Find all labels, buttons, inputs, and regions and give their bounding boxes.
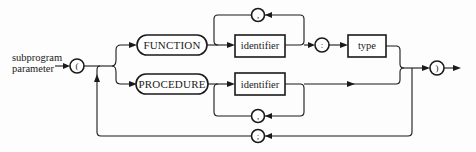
open-paren-terminal: (	[70, 59, 84, 73]
syntax-diagram-canvas: subprogram parameter ( FUNCTION PROCEDUR…	[0, 0, 476, 152]
diagram-label-line-2: parameter	[12, 63, 54, 74]
semicolon-symbol: ;	[257, 131, 260, 141]
identifier-to-colon	[304, 42, 315, 48]
procedure-path-to-join	[304, 68, 404, 87]
colon-to-type	[329, 42, 348, 48]
function-keyword: FUNCTION	[137, 35, 207, 55]
procedure-to-identifier	[208, 81, 235, 87]
type-box: type	[348, 35, 386, 57]
colon-symbol: :	[321, 40, 324, 50]
type-label: type	[358, 40, 376, 51]
diagram-label-line-1: subprogram	[12, 52, 62, 63]
identifier-top-label: identifier	[241, 40, 280, 51]
close-paren-symbol: )	[436, 63, 439, 73]
colon-terminal: :	[315, 38, 329, 52]
identifier-top-box: identifier	[235, 35, 285, 57]
comma-bottom-symbol: ,	[257, 111, 259, 121]
identifier-bottom-label: identifier	[241, 79, 280, 90]
function-keyword-label: FUNCTION	[143, 39, 200, 51]
procedure-keyword: PROCEDURE	[136, 74, 208, 94]
branch-paths	[112, 42, 137, 87]
identifier-bottom-box: identifier	[235, 73, 285, 95]
exit-line	[444, 65, 461, 71]
procedure-keyword-label: PROCEDURE	[138, 78, 205, 90]
join-to-close-paren	[404, 65, 430, 71]
entry-line	[55, 63, 70, 69]
comma-top-symbol: ,	[257, 10, 259, 20]
syntax-diagram: subprogram parameter ( FUNCTION PROCEDUR…	[0, 0, 476, 152]
close-paren-terminal: )	[430, 61, 444, 75]
function-to-identifier	[207, 42, 235, 48]
type-to-join	[386, 46, 404, 68]
open-paren-symbol: (	[76, 61, 79, 71]
